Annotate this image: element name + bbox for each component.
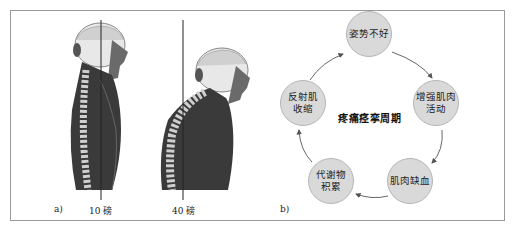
arrow-1	[392, 52, 432, 78]
arrow-2	[432, 130, 442, 163]
node-reflex-contraction: 反射肌收缩	[280, 80, 326, 126]
posture-illustrations	[0, 0, 260, 233]
arrow-3	[356, 194, 388, 198]
panel-a-label: a)	[54, 204, 63, 214]
upright-figure-illustration	[71, 23, 128, 190]
load-label-10: 10 磅	[89, 204, 112, 217]
node-bad-posture: 姿势不好	[346, 11, 392, 57]
panel-b: 姿势不好 增强肌肉活动 肌肉缺血 代谢物积累 反射肌收缩 疼痛痉挛周期 b)	[260, 0, 513, 233]
node-increased-muscle-activity: 增强肌肉活动	[413, 80, 459, 126]
node-muscle-ischemia: 肌肉缺血	[387, 158, 433, 204]
arrow-5	[310, 54, 343, 80]
node-metabolite-accumulation: 代谢物积累	[308, 158, 354, 204]
forward-head-figure-illustration	[161, 48, 250, 190]
panel-a: a) 10 磅 40 磅	[0, 0, 260, 233]
load-label-40: 40 磅	[172, 204, 195, 217]
arrow-4	[299, 130, 312, 162]
panel-b-label: b)	[280, 204, 289, 214]
cycle-title: 疼痛痉挛周期	[338, 110, 401, 125]
